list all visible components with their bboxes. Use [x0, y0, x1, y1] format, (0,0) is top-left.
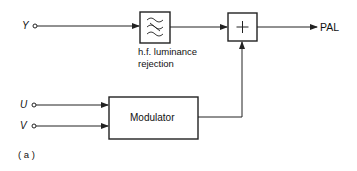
modulator-to-summer-line	[198, 42, 242, 117]
block-diagram	[0, 0, 357, 171]
modulator-label: Modulator	[130, 112, 174, 123]
y-input-terminal	[33, 24, 37, 28]
u-input-label: U	[20, 99, 27, 110]
u-input-terminal	[32, 103, 36, 107]
output-label: PAL	[320, 22, 339, 33]
v-input-terminal	[32, 124, 36, 128]
y-input-label: Y	[22, 20, 29, 31]
figure-label: ( a )	[18, 149, 35, 160]
v-input-label: V	[20, 120, 27, 131]
filter-caption-line2: rejection	[138, 58, 174, 69]
filter-caption-line1: h.f. luminance	[138, 46, 197, 57]
